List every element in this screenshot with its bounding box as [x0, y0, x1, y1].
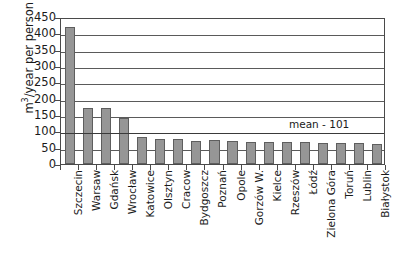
y-axis-tick-label: 200: [26, 94, 56, 106]
y-axis-tick-label: 150: [26, 110, 56, 122]
bar: [119, 118, 129, 164]
x-axis-category-label: Toruń: [344, 170, 355, 199]
x-axis-category-label-text: Szczecin: [73, 170, 84, 215]
x-axis-category-label: Białystok: [380, 170, 391, 218]
bar-chart: m3/year per person 450400350300250200150…: [0, 0, 402, 257]
x-axis-category-label: Wrocław: [127, 170, 138, 214]
bar: [137, 137, 147, 164]
x-axis-category-label-text: Katowice: [145, 170, 156, 217]
bar: [191, 141, 201, 164]
x-axis-category-label-text: Cracow: [181, 170, 192, 209]
x-axis-category-label-text: Warsaw: [91, 170, 102, 211]
bar: [318, 143, 328, 164]
y-axis-tick-label: 100: [26, 127, 56, 139]
x-axis-category-label: Lublin: [362, 170, 373, 201]
x-axis-category-labels: SzczecinWarsawGdańskWrocławKatowiceOlszt…: [60, 170, 385, 255]
x-axis-category-label-text: Olsztyn: [163, 170, 174, 209]
y-axis-tick-label: 400: [26, 29, 56, 41]
bar: [65, 27, 75, 164]
x-axis-category-label-text: Zielona Góra: [326, 170, 337, 238]
x-axis-category-label-text: Białystok: [380, 170, 391, 218]
x-axis-category-label-text: Kielce: [272, 170, 283, 201]
x-axis-category-label: Kielce: [272, 170, 283, 201]
x-axis-category-label: Gdańsk: [109, 170, 120, 209]
y-axis-tick-labels: 450400350300250200150100500: [26, 18, 56, 165]
x-axis-category-label-text: Gorzów W.: [254, 170, 265, 225]
bar: [264, 142, 274, 164]
x-axis-category-label-text: Poznań: [217, 170, 228, 208]
y-axis-tick-label: 50: [26, 143, 56, 155]
x-axis-category-label-text: Gdańsk: [109, 170, 120, 209]
bar: [209, 140, 219, 165]
bar: [372, 144, 382, 164]
x-axis-category-label-text: Wrocław: [127, 170, 138, 214]
bar: [101, 108, 111, 165]
y-axis-tick-label: 0: [26, 159, 56, 171]
x-axis-category-label: Gorzów W.: [254, 170, 265, 225]
bar: [83, 108, 93, 165]
x-axis-category-label: Poznań: [217, 170, 228, 208]
x-axis-category-label: Cracow: [181, 170, 192, 209]
x-axis-category-label-text: Rzeszów: [290, 170, 301, 215]
bar: [300, 142, 310, 164]
x-axis-category-label: Szczecin: [73, 170, 84, 215]
x-axis-category-label: Zielona Góra: [326, 170, 337, 238]
plot-area: mean - 101: [60, 18, 385, 165]
x-axis-category-label-text: Opole: [236, 170, 247, 201]
x-axis-category-label: Rzeszów: [290, 170, 301, 215]
y-axis-tick-label: 250: [26, 78, 56, 90]
bar: [336, 143, 346, 164]
bar: [282, 142, 292, 164]
mean-line-label: mean - 101: [289, 119, 349, 130]
y-axis-tick-label: 300: [26, 61, 56, 73]
x-axis-category-label: Olsztyn: [163, 170, 174, 209]
bar-series: [61, 19, 384, 164]
x-axis-category-label-text: Łódź: [308, 170, 319, 195]
y-axis-tick-label: 450: [26, 12, 56, 24]
mean-line: [61, 133, 384, 134]
x-axis-category-label-text: Bydgoszcz: [199, 170, 210, 225]
x-axis-category-label-text: Lublin: [362, 170, 373, 201]
x-axis-category-label: Warsaw: [91, 170, 102, 211]
bar: [227, 141, 237, 164]
bar: [155, 139, 165, 164]
x-axis-category-label: Łódź: [308, 170, 319, 195]
bar: [246, 142, 256, 164]
bar: [354, 143, 364, 164]
x-axis-category-label: Katowice: [145, 170, 156, 217]
bar: [173, 139, 183, 164]
x-axis-category-label-text: Toruń: [344, 170, 355, 199]
x-axis-category-label: Opole: [236, 170, 247, 201]
x-axis-category-label: Bydgoszcz: [199, 170, 210, 225]
y-axis-tick-label: 350: [26, 45, 56, 57]
